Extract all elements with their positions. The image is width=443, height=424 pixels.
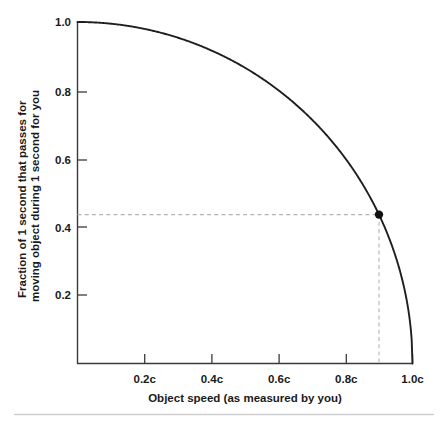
chart-canvas: Fraction of 1 second that passes for mov… [0, 0, 443, 424]
x-tick-label-0.2c: 0.2c [134, 373, 157, 385]
marker-dot-0.9c [375, 210, 383, 218]
y-axis-title-line-2: moving object during 1 second for you [29, 90, 41, 302]
y-tick-label-0.4: 0.4 [55, 222, 72, 234]
x-tick-label-0.8c: 0.8c [335, 373, 358, 385]
y-tick-label-1.0: 1.0 [55, 16, 71, 28]
y-tick-label-0.8: 0.8 [55, 86, 72, 98]
y-axis-title-line-1: Fraction of 1 second that passes for [16, 100, 28, 298]
x-tick-label-1.0c: 1.0c [401, 373, 424, 385]
x-tick-label-0.4c: 0.4c [201, 373, 224, 385]
data-point-marker [375, 210, 383, 218]
y-tick-label-0.2: 0.2 [55, 289, 71, 301]
y-axis-title: Fraction of 1 second that passes for mov… [16, 90, 41, 302]
x-axis-title: Object speed (as measured by you) [148, 392, 342, 404]
y-tick-label-0.6: 0.6 [55, 154, 71, 166]
x-tick-label-0.6c: 0.6c [268, 373, 291, 385]
time-dilation-chart-figure: Fraction of 1 second that passes for mov… [0, 0, 443, 424]
